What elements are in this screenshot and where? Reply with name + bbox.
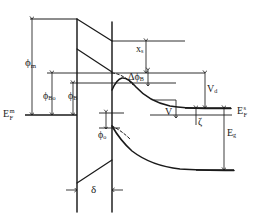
label-zeta: ζ	[198, 117, 202, 127]
label-Eg: Eg	[227, 128, 236, 139]
label-Vd: Vd	[207, 84, 217, 95]
label-phi-B: ϕB	[68, 91, 77, 102]
energy-levels	[25, 19, 234, 170]
label-chi-s: xs	[136, 44, 143, 55]
band-diagram-canvas	[0, 0, 267, 224]
label-EF-semiconductor: EsF	[237, 105, 247, 119]
label-V: V	[165, 107, 172, 117]
insulator-barrier-slopes	[77, 19, 112, 183]
label-EF-metal: EmF	[3, 108, 15, 122]
label-delta: δ	[91, 184, 96, 195]
valence-band-curve	[112, 126, 234, 170]
label-phi-0: ϕo	[98, 130, 106, 141]
label-phi-Bo: ϕBo	[43, 91, 56, 102]
label-phi-m: ϕm	[25, 57, 36, 69]
label-delta-phi-B: ΔϕB	[128, 72, 144, 83]
band-diagram-figure: ϕm ϕBo ϕB xs ΔϕB Vd V ζ Eg ϕo δ EmF EsF	[0, 0, 267, 224]
